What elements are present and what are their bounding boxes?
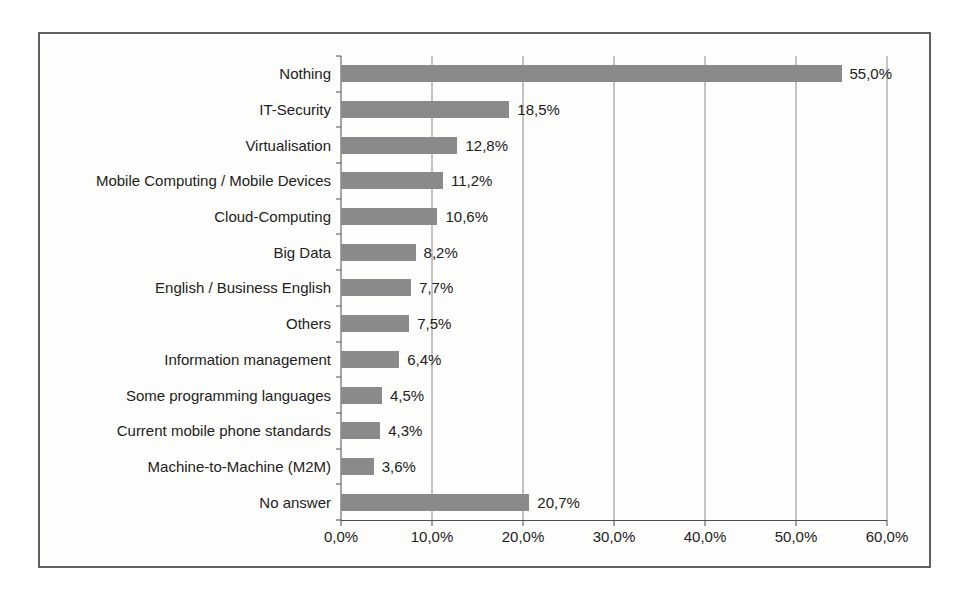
bar-value-label: 20,7%	[537, 495, 580, 510]
x-tick-label: 0,0%	[324, 528, 358, 546]
bar	[341, 351, 399, 368]
bar-row: 11,2%	[341, 163, 887, 199]
bar-value-label: 4,3%	[388, 423, 422, 438]
x-tick-mark	[341, 520, 342, 526]
bar	[341, 172, 443, 189]
bar-row: 7,5%	[341, 306, 887, 342]
bar-value-label: 12,8%	[465, 138, 508, 153]
bars-area: 55,0%18,5%12,8%11,2%10,6%8,2%7,7%7,5%6,4…	[341, 56, 887, 520]
bar-row: 4,5%	[341, 377, 887, 413]
bar-row: 6,4%	[341, 342, 887, 378]
bar-row: 7,7%	[341, 270, 887, 306]
bar-value-label: 11,2%	[451, 173, 492, 188]
category-label: English / Business English	[40, 270, 333, 306]
bar-chart: NothingIT-SecurityVirtualisationMobile C…	[38, 32, 931, 568]
bar	[341, 315, 409, 332]
bar-value-label: 6,4%	[407, 352, 441, 367]
x-axis-labels: 0,0%10,0%20,0%30,0%40,0%50,0%60,0%	[341, 528, 887, 548]
bar-value-label: 8,2%	[424, 245, 458, 260]
bar-row: 12,8%	[341, 127, 887, 163]
x-tick-mark	[705, 520, 706, 526]
bar	[341, 387, 382, 404]
bar-row: 8,2%	[341, 234, 887, 270]
category-label: Big Data	[40, 234, 333, 270]
x-tick-label: 20,0%	[502, 528, 545, 546]
bar-value-label: 18,5%	[517, 102, 560, 117]
bar-row: 55,0%	[341, 56, 887, 92]
x-tick-label: 10,0%	[411, 528, 454, 546]
bar	[341, 65, 842, 82]
bar-value-label: 4,5%	[390, 388, 424, 403]
bar-value-label: 55,0%	[850, 66, 893, 81]
bar-row: 10,6%	[341, 199, 887, 235]
x-tick-mark	[523, 520, 524, 526]
bar-row: 3,6%	[341, 449, 887, 485]
x-tick-label: 30,0%	[593, 528, 636, 546]
category-label: Mobile Computing / Mobile Devices	[40, 163, 333, 199]
category-label: Machine-to-Machine (M2M)	[40, 449, 333, 485]
x-tick-mark	[432, 520, 433, 526]
category-label: Some programming languages	[40, 377, 333, 413]
bar-row: 20,7%	[341, 484, 887, 520]
bar-value-label: 7,7%	[419, 280, 453, 295]
x-tick-label: 50,0%	[775, 528, 818, 546]
bar	[341, 422, 380, 439]
bar	[341, 101, 509, 118]
category-label: Virtualisation	[40, 127, 333, 163]
category-label: IT-Security	[40, 92, 333, 128]
category-label: Information management	[40, 342, 333, 378]
category-label: Current mobile phone standards	[40, 413, 333, 449]
category-labels: NothingIT-SecurityVirtualisationMobile C…	[40, 56, 333, 520]
category-label: Cloud-Computing	[40, 199, 333, 235]
bar-value-label: 10,6%	[445, 209, 488, 224]
category-label: Nothing	[40, 56, 333, 92]
bar	[341, 244, 416, 261]
x-tick-mark	[796, 520, 797, 526]
bar	[341, 279, 411, 296]
x-tick-mark	[614, 520, 615, 526]
bar-row: 18,5%	[341, 92, 887, 128]
bar	[341, 137, 457, 154]
category-label: No answer	[40, 484, 333, 520]
bar	[341, 494, 529, 511]
x-tick-mark	[887, 520, 888, 526]
plot-area: 55,0%18,5%12,8%11,2%10,6%8,2%7,7%7,5%6,4…	[341, 56, 887, 521]
category-label: Others	[40, 306, 333, 342]
bar	[341, 458, 374, 475]
bar-value-label: 3,6%	[382, 459, 416, 474]
x-tick-label: 40,0%	[684, 528, 727, 546]
bar-row: 4,3%	[341, 413, 887, 449]
bar-value-label: 7,5%	[417, 316, 451, 331]
x-tick-label: 60,0%	[866, 528, 909, 546]
bar	[341, 208, 437, 225]
